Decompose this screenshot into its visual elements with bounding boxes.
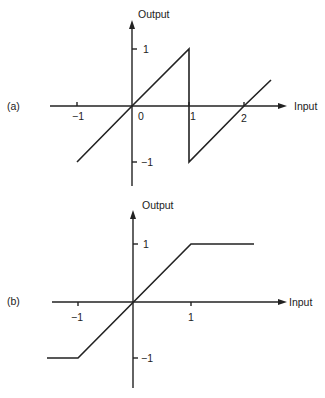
y-axis-arrow-icon	[130, 210, 136, 219]
panel-a: (a) Input Output −1 0 1 2 1 −1	[7, 8, 317, 186]
x-axis-label: Input	[294, 100, 317, 112]
y-axis-label: Output	[142, 199, 174, 211]
y-axis-arrow-icon	[129, 20, 135, 29]
x-tick-label: 2	[241, 112, 247, 124]
x-tick-label: 1	[190, 110, 196, 122]
x-axis-label: Input	[289, 296, 312, 308]
y-tick-label: 1	[143, 238, 149, 250]
saturation-curve	[47, 244, 254, 358]
y-tick-label: 1	[143, 43, 149, 55]
panel-b: (b) Input Output −1 1 1 −1	[7, 199, 312, 388]
panel-b-label: (b)	[7, 295, 20, 307]
x-tick-label: 1	[188, 311, 194, 323]
panel-a-label: (a)	[7, 100, 20, 112]
figure: (a) Input Output −1 0 1 2 1 −1 (b) Input…	[0, 0, 325, 398]
x-tick-label: −1	[72, 110, 84, 122]
x-tick-label: 0	[138, 110, 144, 122]
y-axis-label: Output	[138, 8, 170, 20]
y-tick-label: −1	[141, 352, 153, 364]
x-tick-label: −1	[71, 311, 83, 323]
y-tick-label: −1	[141, 156, 153, 168]
x-axis-arrow-icon	[278, 299, 287, 305]
x-axis-arrow-icon	[278, 103, 287, 109]
